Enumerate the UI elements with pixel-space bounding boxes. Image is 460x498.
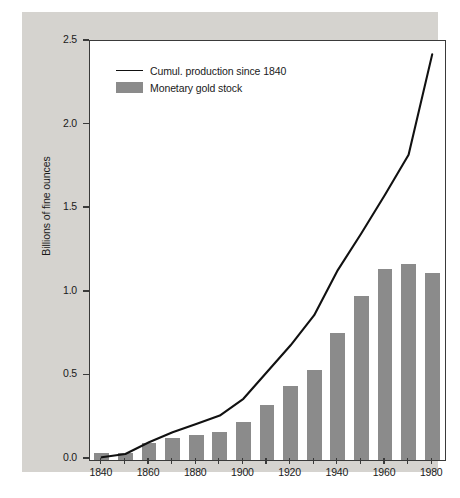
figure-container: Cumul. production since 1840 Monetary go…: [0, 0, 460, 498]
y-axis-tick-mark: [83, 290, 89, 292]
x-axis-tick-mark: [218, 458, 219, 464]
legend-item-monetary-gold-stock: Monetary gold stock: [116, 80, 286, 95]
x-axis-tick-label: 1840: [76, 466, 126, 478]
x-axis-tick-mark: [265, 458, 266, 464]
x-axis-tick-mark: [431, 458, 432, 464]
x-axis-tick-label: 1880: [170, 466, 220, 478]
cumulative-production-line: [90, 41, 444, 459]
x-axis-tick-mark: [242, 458, 243, 464]
x-axis-tick-label: 1900: [217, 466, 267, 478]
plot-area: Cumul. production since 1840 Monetary go…: [89, 40, 446, 461]
x-axis-tick-mark: [147, 458, 148, 464]
x-axis-tick-mark: [171, 458, 172, 464]
y-axis-tick-mark: [83, 39, 89, 41]
x-axis-tick-mark: [407, 458, 408, 464]
x-axis-tick-label: 1980: [406, 466, 456, 478]
y-axis-tick-label: 0.5: [41, 367, 77, 379]
y-axis-tick-mark: [83, 123, 89, 125]
y-axis-tick-mark: [83, 457, 89, 459]
x-axis-tick-mark: [383, 458, 384, 464]
chart-legend: Cumul. production since 1840 Monetary go…: [116, 63, 286, 97]
y-axis-tick-mark: [83, 206, 89, 208]
x-axis-tick-label: 1860: [123, 466, 173, 478]
legend-item-cumulative-production: Cumul. production since 1840: [116, 63, 286, 78]
y-axis-tick-mark: [83, 374, 89, 376]
x-axis-tick-mark: [124, 458, 125, 464]
y-axis-title: Billions of fine ounces: [40, 116, 52, 296]
x-axis-tick-label: 1960: [359, 466, 409, 478]
plot-inner: Cumul. production since 1840 Monetary go…: [90, 41, 445, 460]
x-axis-tick-mark: [360, 458, 361, 464]
x-axis-tick-mark: [289, 458, 290, 464]
y-axis-tick-label: 0.0: [41, 451, 77, 463]
x-axis-tick-mark: [313, 458, 314, 464]
x-axis-tick-mark: [195, 458, 196, 464]
chart-panel: Cumul. production since 1840 Monetary go…: [22, 12, 438, 472]
legend-label-monetary-gold-stock: Monetary gold stock: [150, 82, 242, 94]
x-axis-tick-label: 1940: [312, 466, 362, 478]
legend-label-cumulative-production: Cumul. production since 1840: [150, 65, 286, 77]
x-axis-tick-mark: [336, 458, 337, 464]
bar-swatch-icon: [116, 82, 143, 93]
y-axis-tick-label: 2.5: [41, 33, 77, 45]
x-axis-tick-label: 1920: [265, 466, 315, 478]
x-axis-tick-mark: [100, 458, 101, 464]
line-swatch-icon: [116, 70, 143, 71]
